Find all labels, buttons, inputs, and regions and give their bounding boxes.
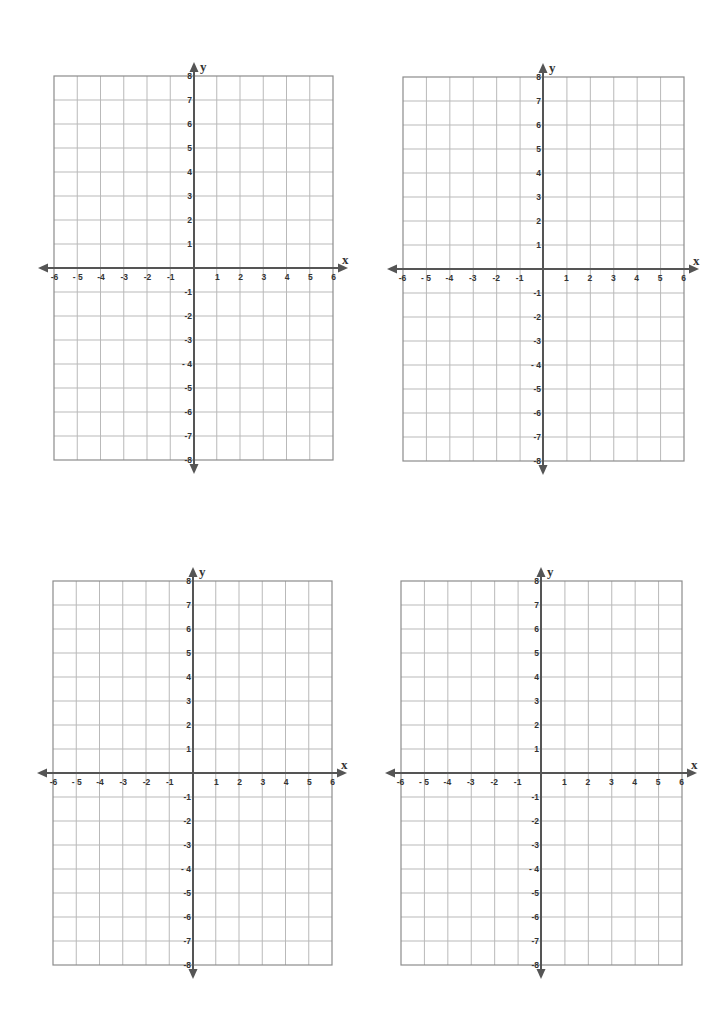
y-tick-label: -3 — [183, 840, 191, 850]
y-tick-label: 2 — [534, 720, 539, 730]
y-tick-label: 8 — [536, 72, 541, 82]
y-tick-label: -5 — [531, 888, 539, 898]
x-tick-label: 2 — [587, 273, 592, 283]
y-tick-label: -5 — [184, 383, 192, 393]
y-tick-label: -7 — [183, 936, 191, 946]
y-tick-label: - 4 — [531, 360, 541, 370]
x-tick-label: 6 — [679, 777, 684, 787]
x-tick-label: 1 — [564, 273, 569, 283]
y-tick-label: -6 — [533, 408, 541, 418]
x-axis-label: x — [342, 252, 349, 267]
arrow-down-icon — [539, 465, 548, 475]
y-tick-label: - 4 — [181, 864, 191, 874]
x-tick-label: -6 — [399, 273, 407, 283]
coordinate-plane-top-left: xy-6- 5-4-3-2-112345687654321-1-2-3- 4-5… — [34, 56, 353, 480]
graph-svg: xy-6- 5-4-3-2-112345687654321-1-2-3- 4-5… — [34, 56, 353, 480]
y-tick-label: -1 — [183, 792, 191, 802]
arrow-down-icon — [189, 969, 198, 979]
y-tick-label: 6 — [187, 119, 192, 129]
x-axis-label: x — [693, 253, 700, 268]
y-tick-label: 3 — [534, 696, 539, 706]
x-tick-label: - 5 — [419, 777, 429, 787]
arrow-left-icon — [387, 265, 397, 274]
y-tick-label: 1 — [534, 744, 539, 754]
x-tick-label: 5 — [658, 273, 663, 283]
y-tick-label: -8 — [533, 456, 541, 466]
y-tick-label: 5 — [536, 144, 541, 154]
y-tick-label: 3 — [186, 696, 191, 706]
x-axis-label: x — [341, 757, 348, 772]
y-tick-label: -2 — [533, 312, 541, 322]
y-tick-label: -6 — [183, 912, 191, 922]
y-tick-label: 5 — [534, 648, 539, 658]
y-tick-label: 1 — [187, 239, 192, 249]
y-tick-label: 4 — [536, 168, 541, 178]
x-tick-label: -4 — [444, 777, 452, 787]
x-tick-label: 4 — [632, 777, 637, 787]
x-tick-label: 5 — [656, 777, 661, 787]
x-tick-label: 1 — [214, 777, 219, 787]
x-tick-label: -1 — [166, 777, 174, 787]
y-tick-label: 1 — [186, 744, 191, 754]
y-tick-label: -3 — [533, 336, 541, 346]
coordinate-plane-bottom-right: xy-6- 5-4-3-2-112345687654321-1-2-3- 4-5… — [381, 561, 702, 985]
x-tick-label: 6 — [331, 272, 336, 282]
x-tick-label: - 5 — [73, 272, 83, 282]
y-tick-label: 3 — [536, 192, 541, 202]
y-tick-label: -1 — [184, 287, 192, 297]
y-tick-label: 5 — [186, 648, 191, 658]
y-tick-label: 6 — [536, 120, 541, 130]
x-tick-label: -2 — [492, 273, 500, 283]
x-tick-label: -1 — [514, 777, 522, 787]
x-tick-label: -6 — [51, 272, 59, 282]
x-tick-label: -6 — [397, 777, 405, 787]
arrow-left-icon — [385, 769, 395, 778]
y-tick-label: -6 — [531, 912, 539, 922]
y-tick-label: -7 — [184, 431, 192, 441]
x-tick-label: -4 — [97, 272, 105, 282]
x-tick-label: -2 — [490, 777, 498, 787]
y-tick-label: 7 — [186, 600, 191, 610]
x-tick-label: 4 — [634, 273, 639, 283]
x-tick-label: -3 — [467, 777, 475, 787]
x-tick-label: -6 — [50, 777, 58, 787]
y-tick-label: 6 — [534, 624, 539, 634]
y-tick-label: 7 — [187, 95, 192, 105]
x-tick-label: 2 — [237, 777, 242, 787]
x-tick-label: 3 — [261, 272, 266, 282]
y-tick-label: 7 — [536, 96, 541, 106]
y-tick-label: -8 — [531, 960, 539, 970]
y-tick-label: 4 — [187, 167, 192, 177]
y-tick-label: 2 — [536, 216, 541, 226]
y-tick-label: 5 — [187, 143, 192, 153]
y-tick-label: -7 — [531, 936, 539, 946]
y-tick-label: 1 — [536, 240, 541, 250]
y-tick-label: -1 — [531, 792, 539, 802]
x-tick-label: 6 — [681, 273, 686, 283]
graph-svg: xy-6- 5-4-3-2-112345687654321-1-2-3- 4-5… — [33, 561, 352, 985]
y-axis-label: y — [547, 564, 554, 579]
y-tick-label: -1 — [533, 288, 541, 298]
coordinate-plane-top-right: xy-6- 5-4-3-2-112345687654321-1-2-3- 4-5… — [383, 57, 704, 481]
y-tick-label: -3 — [531, 840, 539, 850]
y-tick-label: -5 — [183, 888, 191, 898]
graph-svg: xy-6- 5-4-3-2-112345687654321-1-2-3- 4-5… — [383, 57, 704, 481]
coordinate-plane-bottom-left: xy-6- 5-4-3-2-112345687654321-1-2-3- 4-5… — [33, 561, 352, 985]
x-tick-label: 3 — [260, 777, 265, 787]
x-tick-label: -2 — [143, 777, 151, 787]
y-tick-label: - 4 — [182, 359, 192, 369]
x-tick-label: -3 — [120, 272, 128, 282]
y-tick-label: 8 — [534, 576, 539, 586]
x-tick-label: -4 — [96, 777, 104, 787]
y-tick-label: -7 — [533, 432, 541, 442]
y-tick-label: 2 — [187, 215, 192, 225]
x-tick-label: 2 — [238, 272, 243, 282]
y-tick-label: 6 — [186, 624, 191, 634]
x-tick-label: - 5 — [421, 273, 431, 283]
y-tick-label: -2 — [184, 311, 192, 321]
y-tick-label: -2 — [531, 816, 539, 826]
x-tick-label: -3 — [469, 273, 477, 283]
y-axis-label: y — [199, 564, 206, 579]
arrow-left-icon — [37, 769, 47, 778]
x-axis-label: x — [691, 757, 698, 772]
